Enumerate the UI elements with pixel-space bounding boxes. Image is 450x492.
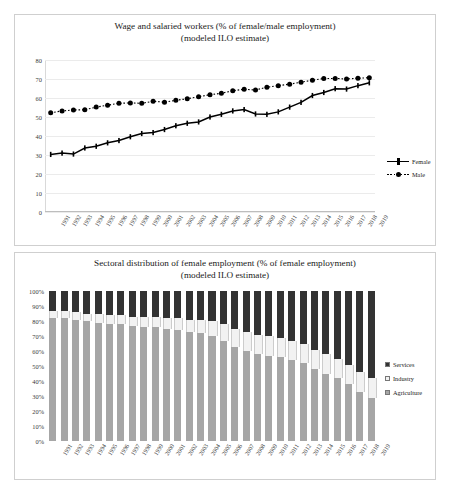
bar-segment-industry bbox=[334, 359, 343, 379]
stacked-bar[interactable] bbox=[61, 291, 68, 441]
female-data-point bbox=[61, 151, 63, 156]
female-data-point bbox=[84, 145, 86, 150]
stacked-bar[interactable] bbox=[277, 291, 284, 441]
stacked-bar[interactable] bbox=[288, 291, 295, 441]
bar-segment-industry bbox=[83, 314, 92, 322]
stacked-bar[interactable] bbox=[106, 291, 113, 441]
y-tick-label: 40% bbox=[21, 378, 44, 385]
bar-segment-agriculture bbox=[186, 332, 193, 442]
stacked-bar[interactable] bbox=[197, 291, 204, 441]
bar-segment-services bbox=[277, 291, 284, 338]
legend-swatch-icon bbox=[385, 362, 390, 367]
male-data-point bbox=[185, 96, 190, 101]
x-tick-label: 2013 bbox=[312, 443, 324, 457]
y-tick-label: 10% bbox=[21, 423, 44, 430]
line-chart-series-svg bbox=[45, 60, 375, 212]
female-data-point bbox=[266, 112, 268, 117]
bar-segment-agriculture bbox=[129, 326, 136, 442]
female-data-point bbox=[209, 114, 211, 119]
x-tick-label: 1999 bbox=[150, 214, 162, 228]
legend-item-services[interactable]: Services bbox=[385, 357, 450, 371]
bar-segment-industry bbox=[106, 315, 115, 324]
stacked-bar[interactable] bbox=[300, 291, 307, 441]
stacked-chart-x-tick-labels: 1991199219931994199519961997199819992000… bbox=[47, 441, 377, 483]
stacked-chart-title-line1: Sectoral distribution of female employme… bbox=[94, 258, 356, 268]
male-data-point bbox=[105, 103, 110, 108]
legend-item-industry[interactable]: Industry bbox=[385, 371, 450, 385]
y-tick-label: 80 bbox=[23, 57, 42, 64]
bar-segment-services bbox=[197, 291, 204, 320]
x-tick-label: 2014 bbox=[321, 214, 333, 228]
x-tick-label: 2013 bbox=[310, 214, 322, 228]
x-tick-label: 1999 bbox=[152, 443, 164, 457]
y-tick-label: 70% bbox=[21, 333, 44, 340]
x-tick-label: 2002 bbox=[187, 443, 199, 457]
bar-segment-services bbox=[106, 291, 113, 315]
stacked-bar[interactable] bbox=[265, 291, 272, 441]
bar-segment-services bbox=[129, 291, 136, 317]
x-tick-label: 1991 bbox=[61, 443, 73, 457]
stacked-bar[interactable] bbox=[83, 291, 90, 441]
stacked-bar[interactable] bbox=[254, 291, 261, 441]
y-tick-label: 20% bbox=[21, 408, 44, 415]
bar-segment-agriculture bbox=[356, 392, 363, 442]
x-tick-label: 2018 bbox=[369, 443, 381, 457]
x-tick-label: 2015 bbox=[333, 214, 345, 228]
stacked-bar[interactable] bbox=[95, 291, 102, 441]
bar-segment-services bbox=[356, 291, 363, 372]
stacked-bar[interactable] bbox=[117, 291, 124, 441]
bar-segment-industry bbox=[152, 317, 161, 328]
stacked-bar[interactable] bbox=[129, 291, 136, 441]
stacked-bar[interactable] bbox=[174, 291, 181, 441]
female-line-key-icon bbox=[387, 158, 409, 166]
bar-segment-services bbox=[208, 291, 215, 321]
bar-segment-industry bbox=[231, 329, 240, 347]
legend-item-male[interactable]: Male bbox=[387, 168, 450, 181]
stacked-bar[interactable] bbox=[345, 291, 352, 441]
line-chart-legend: Female Male bbox=[387, 155, 450, 181]
x-tick-label: 2017 bbox=[355, 214, 367, 228]
bar-segment-services bbox=[140, 291, 147, 317]
x-tick-label: 1994 bbox=[94, 214, 106, 228]
legend-item-female[interactable]: Female bbox=[387, 155, 450, 168]
male-data-point bbox=[367, 75, 372, 80]
stacked-bar[interactable] bbox=[208, 291, 215, 441]
y-tick-label: 50% bbox=[21, 363, 44, 370]
stacked-bar[interactable] bbox=[186, 291, 193, 441]
bar-segment-industry bbox=[356, 372, 365, 392]
stacked-bar[interactable] bbox=[140, 291, 147, 441]
male-data-point bbox=[321, 76, 326, 81]
line-chart-title-line1: Wage and salaried workers (% of female/m… bbox=[115, 21, 336, 31]
stacked-bar[interactable] bbox=[368, 291, 375, 441]
female-data-point bbox=[334, 86, 336, 91]
stacked-bar[interactable] bbox=[152, 291, 159, 441]
stacked-bar[interactable] bbox=[72, 291, 79, 441]
stacked-bar[interactable] bbox=[163, 291, 170, 441]
bar-segment-agriculture bbox=[106, 324, 113, 441]
x-tick-label: 2005 bbox=[221, 443, 233, 457]
bar-segment-industry bbox=[163, 318, 172, 329]
stacked-bar[interactable] bbox=[220, 291, 227, 441]
legend-item-agriculture[interactable]: Agriculture bbox=[385, 385, 450, 399]
stacked-bar[interactable] bbox=[356, 291, 363, 441]
bar-segment-agriculture bbox=[277, 357, 284, 441]
stacked-bar[interactable] bbox=[231, 291, 238, 441]
female-data-point bbox=[346, 86, 348, 91]
female-data-point bbox=[186, 121, 188, 126]
x-tick-label: 2016 bbox=[346, 443, 358, 457]
stacked-bar[interactable] bbox=[243, 291, 250, 441]
stacked-bar[interactable] bbox=[322, 291, 329, 441]
bar-segment-industry bbox=[300, 344, 309, 364]
legend-label-female: Female bbox=[412, 158, 431, 165]
bar-segment-agriculture bbox=[152, 327, 159, 441]
stacked-bar[interactable] bbox=[311, 291, 318, 441]
stacked-bar[interactable] bbox=[334, 291, 341, 441]
x-tick-label: 2005 bbox=[219, 214, 231, 228]
bar-segment-services bbox=[72, 291, 79, 312]
charts-page: Wage and salaried workers (% of female/m… bbox=[0, 0, 450, 492]
y-tick-label: 50 bbox=[23, 114, 42, 121]
x-tick-label: 2003 bbox=[198, 443, 210, 457]
stacked-bar[interactable] bbox=[49, 291, 56, 441]
x-tick-label: 2009 bbox=[264, 214, 276, 228]
y-tick-label: 70 bbox=[23, 76, 42, 83]
